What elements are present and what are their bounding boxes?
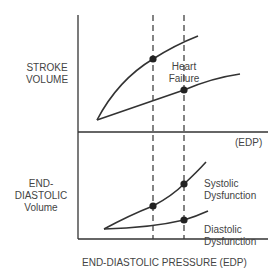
diastolic-dysfunction-curve bbox=[104, 211, 208, 229]
stroke-volume-label: STROKE VOLUME bbox=[22, 62, 72, 86]
point-diastolic-elevated bbox=[180, 216, 187, 223]
point-systolic-normal bbox=[149, 202, 156, 209]
end-diastolic-volume-label: END- DIASTOLIC Volume bbox=[10, 178, 72, 214]
point-heart-failure bbox=[180, 86, 187, 93]
systolic-dysfunction-curve bbox=[104, 162, 206, 229]
heart-failure-label: Heart Failure bbox=[163, 61, 205, 85]
point-systolic-elevated bbox=[180, 180, 187, 187]
diastolic-dysfunction-label: Diastolic Dysfunction bbox=[204, 224, 256, 248]
systolic-dysfunction-label: Systolic Dysfunction bbox=[204, 178, 256, 202]
bottom-x-axis-label: END-DIASTOLIC PRESSURE (EDP) bbox=[82, 257, 247, 269]
top-x-axis-label: (EDP) bbox=[235, 137, 262, 149]
point-normal bbox=[149, 55, 156, 62]
